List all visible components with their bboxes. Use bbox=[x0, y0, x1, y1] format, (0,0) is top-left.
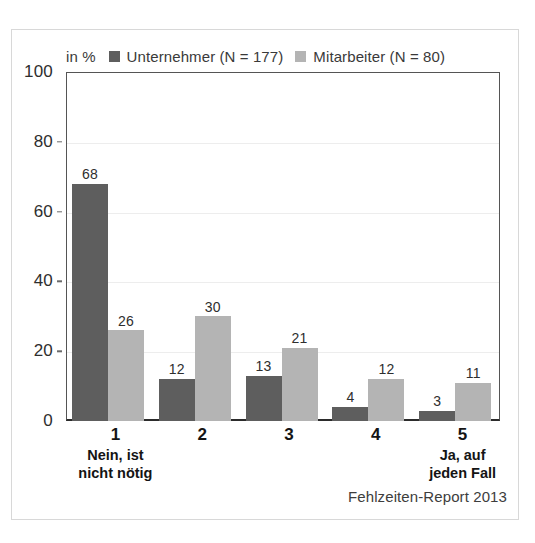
y-tick-label-80: 80 bbox=[34, 132, 53, 152]
bar-value-mitarbeiter-2: 30 bbox=[190, 299, 236, 315]
bar-unternehmer-2[interactable] bbox=[159, 379, 195, 421]
bar-mitarbeiter-4[interactable] bbox=[368, 379, 404, 421]
x-tick-number-5: 5 bbox=[403, 424, 523, 446]
legend-label-mitarbeiter: Mitarbeiter (N = 80) bbox=[313, 48, 445, 65]
y-tick-mark-60 bbox=[57, 211, 62, 212]
bar-value-unternehmer-2: 12 bbox=[154, 361, 200, 377]
chart-source-note: Fehlzeiten-Report 2013 bbox=[348, 488, 507, 505]
bar-value-mitarbeiter-5: 11 bbox=[450, 365, 496, 381]
bar-group-1: 68 26 bbox=[72, 72, 159, 421]
y-tick-label-0: 0 bbox=[43, 411, 53, 431]
bar-value-unternehmer-5: 3 bbox=[414, 393, 460, 409]
bar-group-3: 13 21 bbox=[246, 72, 333, 421]
y-tick-label-100: 100 bbox=[24, 62, 53, 82]
x-tick-sublabel-1: Nein, ist nicht nötig bbox=[55, 446, 175, 482]
bar-mitarbeiter-2[interactable] bbox=[195, 316, 231, 421]
y-tick-label-40: 40 bbox=[34, 271, 53, 291]
legend-swatch-unternehmer bbox=[109, 51, 120, 62]
bar-unternehmer-5[interactable] bbox=[419, 411, 455, 422]
x-tick-sublabel-5: Ja, auf jeden Fall bbox=[403, 446, 523, 482]
bar-value-mitarbeiter-4: 12 bbox=[363, 361, 409, 377]
legend-swatch-mitarbeiter bbox=[295, 51, 306, 62]
bar-unternehmer-3[interactable] bbox=[246, 376, 282, 421]
y-axis-unit-label: in % bbox=[66, 48, 96, 65]
bar-group-2: 12 30 bbox=[159, 72, 246, 421]
bar-unternehmer-1[interactable] bbox=[72, 184, 108, 421]
bars-layer: 68 26 12 30 13 21 4 12 3 1 bbox=[66, 72, 500, 421]
bar-mitarbeiter-5[interactable] bbox=[455, 383, 491, 421]
bar-value-mitarbeiter-3: 21 bbox=[277, 330, 323, 346]
legend-item-unternehmer: Unternehmer (N = 177) bbox=[109, 48, 284, 65]
y-tick-label-60: 60 bbox=[34, 202, 53, 222]
bar-value-mitarbeiter-1: 26 bbox=[103, 313, 149, 329]
chart-legend: in % Unternehmer (N = 177) Mitarbeiter (… bbox=[66, 45, 457, 67]
bar-mitarbeiter-3[interactable] bbox=[282, 348, 318, 421]
legend-label-unternehmer: Unternehmer (N = 177) bbox=[127, 48, 284, 65]
x-label-group-5: 5 Ja, auf jeden Fall bbox=[403, 424, 523, 482]
y-tick-label-20: 20 bbox=[34, 341, 53, 361]
y-tick-mark-20 bbox=[57, 350, 62, 351]
bar-unternehmer-4[interactable] bbox=[332, 407, 368, 421]
bar-value-unternehmer-4: 4 bbox=[327, 389, 373, 405]
bar-value-unternehmer-3: 13 bbox=[241, 358, 287, 374]
bar-group-4: 4 12 bbox=[332, 72, 419, 421]
y-axis: 100 80 60 40 20 0 bbox=[0, 72, 62, 421]
legend-item-mitarbeiter: Mitarbeiter (N = 80) bbox=[295, 48, 445, 65]
bar-group-5: 3 11 bbox=[419, 72, 506, 421]
bar-value-unternehmer-1: 68 bbox=[67, 166, 113, 182]
y-tick-mark-80 bbox=[57, 141, 62, 142]
chart-figure: in % Unternehmer (N = 177) Mitarbeiter (… bbox=[0, 0, 535, 543]
y-tick-mark-40 bbox=[57, 281, 62, 282]
bar-mitarbeiter-1[interactable] bbox=[108, 330, 144, 421]
